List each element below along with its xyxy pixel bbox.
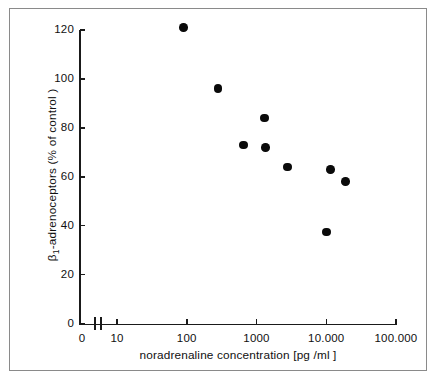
x-axis-tick — [116, 319, 118, 324]
x-axis-tick-label-text: 1000 — [243, 332, 269, 344]
y-axis-tick — [80, 127, 85, 129]
y-axis-title-symbol: β — [45, 254, 59, 261]
x-axis-tick — [395, 319, 397, 324]
y-axis-line — [79, 30, 81, 325]
x-axis-tick-label-text: 100 — [177, 332, 197, 344]
data-point — [239, 141, 248, 150]
data-point — [322, 228, 331, 237]
data-point — [260, 114, 269, 123]
x-axis-tick-label: 10 — [77, 328, 157, 346]
y-axis-title-rest: -adrenoceptors (% of control ) — [45, 89, 59, 250]
data-point — [283, 163, 292, 172]
x-axis-line — [79, 324, 397, 326]
data-point — [261, 143, 270, 152]
x-axis-tick-label-text: 10.000 — [308, 332, 344, 344]
x-axis-tick-label: 10.000 — [286, 328, 366, 346]
x-axis-tick-label: 100 — [147, 328, 227, 346]
y-axis-tick — [80, 225, 85, 227]
x-axis-title: noradrenaline concentration [pg /ml ] — [79, 348, 397, 362]
x-axis-tick-label: 100.000 — [356, 328, 436, 346]
x-axis-tick-label: 1000 — [217, 328, 297, 346]
x-axis-tick — [256, 319, 258, 324]
data-point — [179, 23, 188, 32]
y-axis-title-subscript: 1 — [51, 249, 61, 254]
scatter-plot-figure: 020406080100120 010100100010.000100.000 … — [0, 0, 438, 382]
x-axis-tick — [186, 319, 188, 324]
data-point — [214, 84, 223, 93]
y-axis-tick — [80, 274, 85, 276]
y-axis-tick — [80, 78, 85, 80]
x-axis-tick-label-text: 100.000 — [375, 332, 418, 344]
y-axis-tick — [80, 176, 85, 178]
y-axis-tick — [80, 29, 85, 31]
data-point — [326, 165, 335, 174]
x-axis-tick-label-text: 10 — [110, 332, 123, 344]
plot-area: 020406080100120 010100100010.000100.000 … — [0, 0, 438, 382]
y-axis-title: β1-adrenoceptors (% of control ) — [45, 25, 59, 325]
data-point — [341, 177, 350, 186]
x-axis-tick — [326, 319, 328, 324]
y-axis-tick — [80, 323, 85, 325]
